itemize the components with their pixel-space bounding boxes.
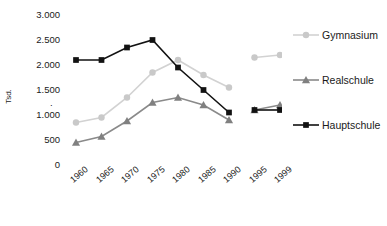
x-tick-label: 1985 — [196, 164, 218, 185]
legend-item-label: Hauptschule — [322, 119, 380, 131]
x-tick-label: 1990 — [221, 164, 243, 185]
x-tick-label: 1995 — [247, 164, 269, 185]
triangle-marker-icon — [292, 73, 320, 87]
legend-item-gymnasium[interactable]: Gymnasium — [292, 28, 387, 42]
x-tick-label: 1970 — [119, 164, 141, 185]
legend-item-hauptschule[interactable]: Hauptschule — [292, 118, 387, 132]
x-tick-label: 1975 — [145, 164, 167, 185]
square-marker-icon — [292, 118, 320, 132]
x-tick-label: 1999 — [272, 164, 294, 185]
legend-item-realschule[interactable]: Realschule — [292, 73, 387, 87]
x-tick-label: 1965 — [94, 164, 116, 185]
chart-container: Tsd. 3.0002.5002.0001.5001.0005000 . 196… — [0, 0, 387, 226]
legend-item-label: Gymnasium — [322, 29, 378, 41]
legend-item-label: Realschule — [322, 74, 374, 86]
x-tick-label: 1960 — [68, 164, 90, 185]
circle-marker-icon — [292, 28, 320, 42]
x-tick-label: 1980 — [170, 164, 192, 185]
chart-legend: GymnasiumRealschuleHauptschule — [292, 28, 387, 163]
